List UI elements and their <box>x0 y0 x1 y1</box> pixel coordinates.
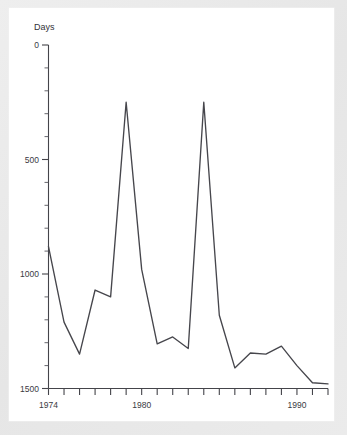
y-tick-label: 1500 <box>20 384 39 394</box>
x-tick-label: 1990 <box>287 400 306 410</box>
y-tick-label: 1000 <box>20 269 39 279</box>
y-axis: 150010005000 <box>20 40 48 394</box>
y-tick-label: 500 <box>25 155 39 165</box>
x-tick-label: 1974 <box>39 400 58 410</box>
y-axis-tick-labels: 150010005000 <box>20 40 39 394</box>
x-axis: 197419801990 <box>39 389 328 411</box>
x-axis-ticks <box>49 389 329 396</box>
y-axis-major-ticks <box>42 45 49 389</box>
data-series-line <box>49 102 329 384</box>
chart-figure: 150010005000 197419801990 Days <box>0 0 347 435</box>
line-chart-plot: 150010005000 197419801990 Days <box>9 8 334 421</box>
y-axis-minor-ticks <box>45 68 49 366</box>
chart-panel: 150010005000 197419801990 Days <box>9 8 334 421</box>
x-axis-tick-labels: 197419801990 <box>39 400 307 410</box>
y-axis-label: Days <box>34 22 55 32</box>
y-tick-label: 0 <box>34 40 39 50</box>
x-tick-label: 1980 <box>132 400 151 410</box>
